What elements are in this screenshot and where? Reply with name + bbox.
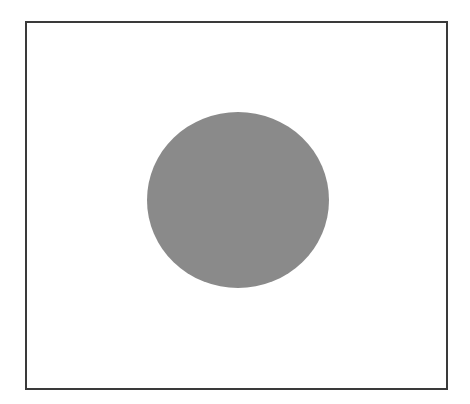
diagram-svg — [0, 0, 470, 404]
diagram-canvas — [0, 0, 470, 404]
gray-circle — [147, 112, 329, 288]
